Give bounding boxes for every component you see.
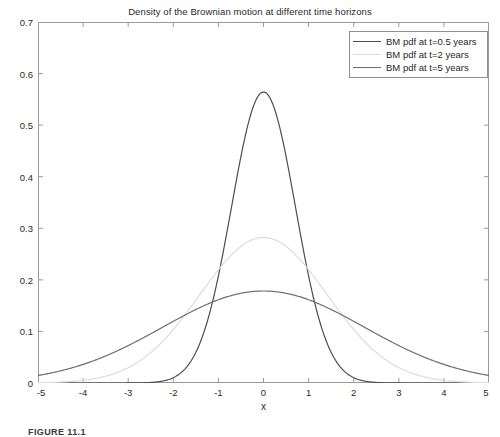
figure-caption: FIGURE 11.1 (28, 427, 86, 437)
x-tick-label: -2 (169, 387, 177, 398)
data-series-line (38, 238, 489, 383)
y-tick-label: 0.1 (20, 326, 33, 337)
legend-label: BM pdf at t=0.5 years (386, 36, 477, 47)
x-tick-label: 0 (261, 387, 266, 398)
x-tick-label: -4 (79, 387, 87, 398)
y-tick-label: 0 (28, 378, 33, 389)
x-tick-label: -5 (37, 387, 45, 398)
y-tick-label: 0.3 (20, 223, 33, 234)
y-tick-label: 0.5 (20, 120, 33, 131)
legend-label: BM pdf at t=5 years (386, 62, 469, 73)
y-tick-label: 0.7 (20, 17, 33, 28)
x-tick-label: -1 (214, 387, 222, 398)
x-tick-label: 2 (351, 387, 356, 398)
legend-entry: BM pdf at t=2 years (353, 48, 483, 61)
legend-line-swatch (353, 54, 381, 55)
legend-line-swatch (353, 67, 381, 68)
x-axis-label: x (38, 401, 489, 412)
x-axis-tick-labels: -5-4-3-2-1012345 (38, 387, 489, 401)
y-axis-tick-labels: 00.10.20.30.40.50.60.7 (0, 22, 33, 383)
x-tick-label: -3 (124, 387, 132, 398)
x-tick-label: 3 (396, 387, 401, 398)
legend-label: BM pdf at t=2 years (386, 49, 469, 60)
legend: BM pdf at t=0.5 yearsBM pdf at t=2 years… (349, 31, 488, 78)
legend-entry: BM pdf at t=0.5 years (353, 35, 483, 48)
y-tick-label: 0.6 (20, 68, 33, 79)
x-tick-label: 1 (306, 387, 311, 398)
y-tick-label: 0.4 (20, 171, 33, 182)
x-tick-label: 5 (483, 387, 488, 398)
x-tick-label: 4 (441, 387, 446, 398)
chart-title: Density of the Brownian motion at differ… (0, 6, 500, 17)
legend-line-swatch (353, 41, 381, 42)
y-tick-label: 0.2 (20, 274, 33, 285)
figure-container: Density of the Brownian motion at differ… (0, 0, 500, 437)
legend-entry: BM pdf at t=5 years (353, 61, 483, 74)
data-series-line (38, 291, 489, 375)
